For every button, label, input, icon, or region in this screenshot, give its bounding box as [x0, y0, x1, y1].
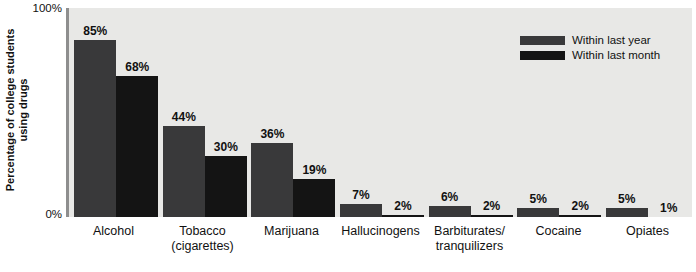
legend-label: Within last month [572, 49, 660, 61]
bar-value-label: 85% [83, 24, 107, 38]
bar-value-label: 30% [214, 140, 238, 154]
x-axis-label: Cocaine [514, 224, 603, 254]
x-axis-baseline [66, 217, 692, 219]
bar-value-label: 36% [260, 127, 284, 141]
bar-column: 7% [340, 8, 382, 219]
x-axis-label: Barbiturates/ tranquilizers [425, 224, 514, 254]
y-tick-label-100: 100% [2, 2, 62, 14]
bar-value-label: 2% [394, 199, 411, 213]
legend-item: Within last month [520, 49, 660, 61]
x-axis-label: Tobacco (cigarettes) [158, 224, 247, 254]
bar [116, 76, 158, 219]
bar-column: 68% [116, 8, 158, 219]
chart-legend: Within last yearWithin last month [520, 34, 660, 61]
bar-column: 19% [293, 8, 335, 219]
bar-value-label: 5% [530, 192, 547, 206]
bar-column: 6% [429, 8, 471, 219]
bar-column: 2% [382, 8, 424, 219]
bar-value-label: 19% [302, 163, 326, 177]
legend-item: Within last year [520, 34, 660, 46]
x-axis-label: Alcohol [69, 224, 158, 254]
bar-chart: Percentage of college students using dru… [0, 0, 696, 272]
bar [293, 179, 335, 219]
bar-group: 6%2% [426, 8, 515, 219]
bar-group: 7%2% [338, 8, 427, 219]
bar-value-label: 1% [660, 201, 677, 215]
x-axis-label: Opiates [603, 224, 692, 254]
bar-value-label: 6% [441, 190, 458, 204]
bar-value-label: 2% [483, 199, 500, 213]
legend-swatch [520, 36, 565, 45]
bar [205, 156, 247, 219]
bar-value-label: 5% [618, 192, 635, 206]
y-tick-label-0: 0% [2, 208, 62, 220]
bar-column: 85% [74, 8, 116, 219]
bar [74, 40, 116, 219]
legend-swatch [520, 51, 565, 60]
x-axis-labels: AlcoholTobacco (cigarettes)MarijuanaHall… [69, 224, 692, 254]
legend-label: Within last year [572, 34, 651, 46]
x-axis-label: Marijuana [247, 224, 336, 254]
bar-value-label: 2% [572, 199, 589, 213]
bar-column: 2% [471, 8, 513, 219]
bar-column: 44% [163, 8, 205, 219]
bar-group: 85%68% [72, 8, 161, 219]
y-axis-ticks: 100% 0% [0, 0, 62, 230]
bar-group: 44%30% [161, 8, 250, 219]
bar-value-label: 68% [125, 60, 149, 74]
bar-value-label: 7% [352, 188, 369, 202]
bar-column: 30% [205, 8, 247, 219]
bar-column: 36% [251, 8, 293, 219]
bar-value-label: 44% [172, 110, 196, 124]
bar [251, 143, 293, 219]
x-axis-label: Hallucinogens [336, 224, 425, 254]
bar [163, 126, 205, 219]
bar-group: 36%19% [249, 8, 338, 219]
